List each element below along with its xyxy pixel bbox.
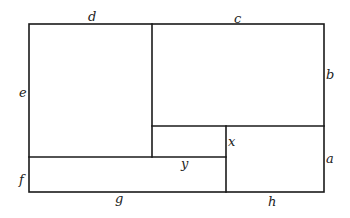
label-h: h [268,194,276,209]
label-x: x [228,134,236,149]
label-f: f [18,172,26,187]
label-e: e [19,85,27,100]
label-a: a [326,151,334,166]
label-g: g [115,191,123,206]
rectangle-partition-diagram: d c b e x y a f g h [0,0,350,218]
outer-rectangle [29,24,324,192]
label-b: b [326,67,334,82]
label-d: d [88,9,96,24]
label-y: y [180,156,189,171]
label-c: c [234,11,242,26]
